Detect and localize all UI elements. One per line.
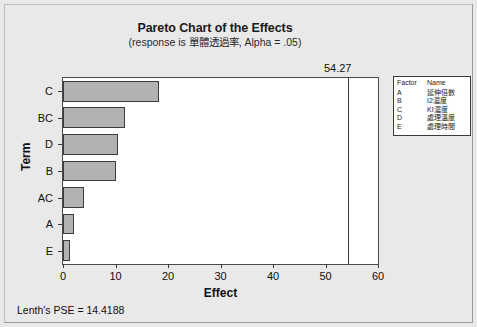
x-tick-mark <box>273 264 274 268</box>
title-block: Pareto Chart of the Effects (response is… <box>5 21 425 49</box>
bar-a <box>63 214 74 235</box>
bar-c <box>63 81 159 102</box>
y-tick-mark <box>58 118 62 119</box>
y-tick-mark <box>58 91 62 92</box>
x-tick-mark <box>116 264 117 268</box>
x-tick-mark <box>326 264 327 268</box>
factor-name: I2濃度 <box>427 97 467 106</box>
factor-code: C <box>397 106 427 115</box>
y-tick-mark <box>58 144 62 145</box>
y-tick-mark <box>58 251 62 252</box>
bar-e <box>63 240 70 261</box>
factor-name: 處理溫度 <box>427 114 467 123</box>
reference-line-label: 54.27 <box>324 62 352 74</box>
y-tick-label-bc: BC <box>11 112 53 124</box>
factor-code: B <box>397 97 427 106</box>
y-tick-label-d: D <box>11 138 53 150</box>
x-tick-label-50: 50 <box>319 270 331 282</box>
y-tick-mark <box>58 198 62 199</box>
x-tick-label-0: 0 <box>60 270 66 282</box>
x-tick-label-60: 60 <box>372 270 384 282</box>
bar-b <box>63 161 116 182</box>
x-tick-mark <box>378 264 379 268</box>
bar-d <box>63 134 118 155</box>
factor-legend: Factor Name A延伸倍數BI2濃度CKI濃度D處理溫度E處理時間 <box>393 76 471 136</box>
factor-code: E <box>397 123 427 132</box>
factor-legend-row: D處理溫度 <box>397 114 467 123</box>
factor-legend-row: BI2濃度 <box>397 97 467 106</box>
x-tick-mark <box>221 264 222 268</box>
y-tick-mark <box>58 224 62 225</box>
bar-bc <box>63 107 125 128</box>
x-tick-label-40: 40 <box>267 270 279 282</box>
y-tick-mark <box>58 171 62 172</box>
factor-column-header: Factor <box>397 79 427 89</box>
y-tick-label-b: B <box>11 165 53 177</box>
factor-code: A <box>397 89 427 98</box>
x-axis-title: Effect <box>62 286 379 300</box>
factor-legend-row: A延伸倍數 <box>397 89 467 98</box>
factor-legend-header-row: Factor Name <box>397 79 467 89</box>
bar-ac <box>63 187 84 208</box>
lenth-pse-annotation: Lenth's PSE = 14.4188 <box>17 304 124 316</box>
factor-code: D <box>397 114 427 123</box>
x-tick-mark <box>168 264 169 268</box>
factor-legend-body: A延伸倍數BI2濃度CKI濃度D處理溫度E處理時間 <box>397 89 467 132</box>
x-tick-label-30: 30 <box>214 270 226 282</box>
factor-legend-table: Factor Name A延伸倍數BI2濃度CKI濃度D處理溫度E處理時間 <box>397 79 467 132</box>
page-title: Pareto Chart of the Effects <box>5 21 425 36</box>
y-tick-label-ac: AC <box>11 192 53 204</box>
factor-name: 處理時間 <box>427 123 467 132</box>
factor-legend-row: E處理時間 <box>397 123 467 132</box>
y-tick-label-a: A <box>11 218 53 230</box>
y-tick-label-e: E <box>11 245 53 257</box>
name-column-header: Name <box>427 79 467 89</box>
x-tick-mark <box>63 264 64 268</box>
x-tick-label-20: 20 <box>162 270 174 282</box>
reference-line <box>348 78 349 264</box>
factor-name: 延伸倍數 <box>427 89 467 98</box>
chart-subtitle: (response is 單體透過率, Alpha = .05) <box>5 36 425 49</box>
chart-window: Pareto Chart of the Effects (response is… <box>4 4 473 323</box>
y-tick-label-c: C <box>11 85 53 97</box>
application-frame: Pareto Chart of the Effects (response is… <box>0 0 477 327</box>
x-tick-label-10: 10 <box>109 270 121 282</box>
plot-area <box>62 77 379 265</box>
